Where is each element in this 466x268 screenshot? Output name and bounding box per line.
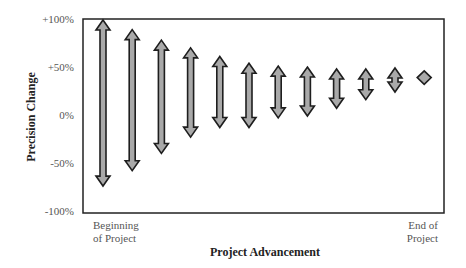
y-tick-label: +100%	[14, 13, 74, 25]
plot-frame	[83, 19, 444, 213]
x-end-line-1: End of	[407, 219, 438, 232]
x-axis-label: Project Advancement	[210, 245, 320, 260]
x-start-label: Beginning of Project	[93, 219, 139, 245]
x-start-line-2: of Project	[93, 232, 139, 245]
y-tick-label: -100%	[14, 205, 74, 217]
chart-canvas	[0, 0, 466, 268]
x-end-line-2: Project	[407, 232, 438, 245]
y-tick-label: +50%	[14, 61, 74, 73]
x-end-label: End of Project	[407, 219, 438, 245]
x-start-line-1: Beginning	[93, 219, 139, 232]
y-axis-label: Precision Change	[24, 72, 39, 161]
